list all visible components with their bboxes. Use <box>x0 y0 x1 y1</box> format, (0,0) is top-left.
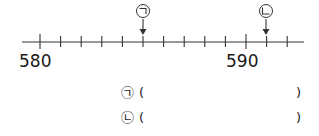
close-paren: ) <box>296 84 301 102</box>
marker-a-circle-icon <box>137 5 150 18</box>
label-590: 590 <box>226 51 258 71</box>
answer-marker-b: ㉡ <box>121 109 134 127</box>
arrow-down-icon <box>140 29 147 35</box>
marker-a <box>137 5 150 36</box>
arrow-down-icon <box>263 29 270 35</box>
answer-row-a: ㉠ ( ) <box>121 84 301 102</box>
giyeok-glyph-icon <box>140 9 147 15</box>
open-paren: ( <box>139 84 144 102</box>
nieun-glyph-icon <box>263 8 270 15</box>
close-paren: ) <box>296 109 301 127</box>
label-580: 580 <box>19 51 51 71</box>
marker-b-circle-icon <box>260 5 273 18</box>
marker-b <box>260 5 273 36</box>
open-paren: ( <box>139 109 144 127</box>
answer-row-b: ㉡ ( ) <box>121 109 301 127</box>
answer-marker-a: ㉠ <box>121 84 134 102</box>
number-line: 580 590 <box>0 0 319 75</box>
